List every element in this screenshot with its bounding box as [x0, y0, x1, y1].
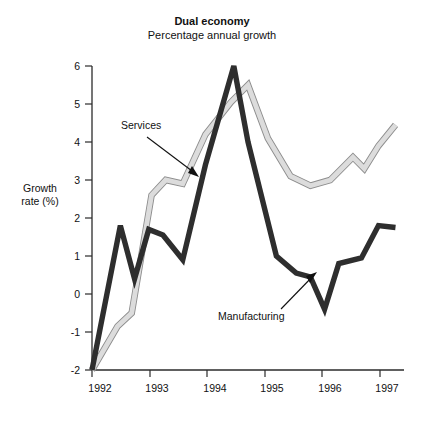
x-tick-1995: 1995: [260, 382, 284, 394]
y-tick-neg1: -1: [71, 326, 80, 338]
y-tick-6: 6: [74, 60, 80, 72]
y-tick-4: 4: [74, 136, 80, 148]
chart-background: [0, 0, 425, 427]
y-tick-2: 2: [74, 212, 80, 224]
y-tick-0: 0: [74, 288, 80, 300]
chart-subtitle: Percentage annual growth: [148, 29, 276, 41]
chart-title: Dual economy: [174, 15, 250, 27]
y-tick-3: 3: [74, 174, 80, 186]
x-tick-1996: 1996: [318, 382, 342, 394]
y-tick-5: 5: [74, 98, 80, 110]
x-tick-1993: 1993: [145, 382, 169, 394]
x-tick-1997: 1997: [375, 382, 399, 394]
y-axis-label-line1: Growth: [23, 182, 57, 194]
y-tick-1: 1: [74, 250, 80, 262]
dual-economy-chart: Dual economy Percentage annual growth Gr…: [0, 0, 425, 427]
y-axis-label-line2: rate (%): [21, 195, 58, 207]
annotation-label-services: Services: [121, 119, 161, 131]
annotation-label-manufacturing: Manufacturing: [218, 310, 285, 322]
x-tick-1992: 1992: [88, 382, 112, 394]
x-tick-1994: 1994: [203, 382, 227, 394]
y-tick-neg2: -2: [71, 364, 80, 376]
